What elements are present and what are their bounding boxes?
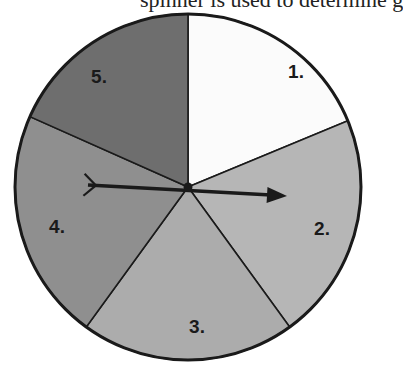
cropped-caption: spinner is used to determine g (140, 0, 403, 13)
sector-label-3: 3. (189, 316, 205, 337)
pivot-hub (184, 183, 193, 192)
sector-label-2: 2. (314, 218, 330, 239)
sector-label-4: 4. (49, 216, 65, 237)
sector-label-1: 1. (288, 61, 304, 82)
sector-label-5: 5. (91, 66, 107, 87)
